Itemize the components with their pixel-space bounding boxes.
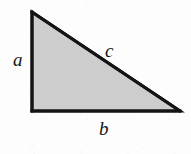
label-side-b: b — [99, 119, 109, 138]
right-triangle-figure: a c b — [0, 0, 191, 154]
label-side-a: a — [13, 50, 23, 69]
label-side-c: c — [105, 41, 113, 60]
triangle-graphic — [0, 0, 191, 154]
